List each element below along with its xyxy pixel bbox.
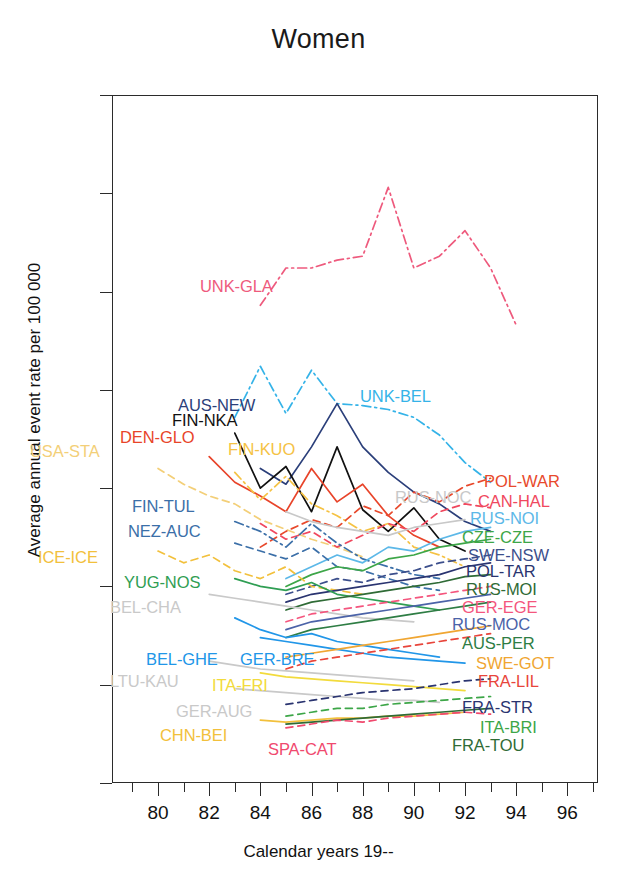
x-tick-mark-minor — [132, 783, 133, 792]
series-label-den-glo: DEN-GLO — [120, 428, 194, 447]
series-label-rus-noi: RUS-NOI — [470, 509, 539, 528]
x-tick-mark — [312, 783, 313, 796]
series-label-usa-sta: USA-STA — [30, 442, 100, 461]
series-label-pol-war: POL-WAR — [484, 472, 560, 491]
series-label-cze-cze: CZE-CZE — [462, 528, 533, 547]
series-line — [286, 563, 491, 602]
x-tick-mark-minor — [593, 783, 594, 792]
x-axis-label: Calendar years 19-- — [0, 842, 637, 862]
series-label-ltu-kau: LTU-KAU — [110, 672, 179, 691]
series-label-rus-moi: RUS-MOI — [466, 580, 537, 599]
series-line — [235, 366, 491, 482]
series-line — [260, 404, 490, 532]
series-line — [260, 673, 465, 691]
series-line — [260, 187, 516, 325]
series-line — [209, 594, 414, 622]
y-tick-mark — [100, 390, 112, 391]
series-line — [286, 512, 465, 536]
series-label-fra-str: FRA-STR — [462, 698, 533, 717]
series-label-ger-aug: GER-AUG — [176, 702, 252, 721]
series-label-fra-tou: FRA-TOU — [452, 736, 524, 755]
series-label-fra-lil: FRA-LIL — [478, 672, 539, 691]
x-tick-mark — [465, 783, 466, 796]
x-tick-mark — [260, 783, 261, 796]
x-tick-mark-minor — [567, 783, 568, 792]
series-line — [286, 555, 491, 594]
series-label-spa-cat: SPA-CAT — [268, 740, 336, 759]
series-label-bel-ghe: BEL-GHE — [146, 650, 218, 669]
x-tick-mark — [516, 783, 517, 796]
x-tick-mark — [209, 783, 210, 796]
y-tick-mark — [100, 783, 112, 784]
series-label-ita-fri: ITA-FRI — [212, 676, 268, 695]
series-label-fin-tul: FIN-TUL — [132, 497, 195, 516]
x-tick-mark-minor — [491, 783, 492, 792]
series-label-ger-bre: GER-BRE — [240, 650, 314, 669]
series-label-nez-auc: NEZ-AUC — [128, 522, 201, 541]
page-title: Women — [0, 24, 637, 55]
x-tick-mark-minor — [337, 783, 338, 792]
series-label-ita-bri: ITA-BRI — [480, 718, 537, 737]
y-tick-mark — [100, 586, 112, 587]
chart-root: Women Average annual event rate per 100 … — [0, 0, 637, 893]
x-tick-mark — [363, 783, 364, 796]
series-label-chn-bei: CHN-BEI — [160, 726, 227, 745]
series-line — [235, 579, 440, 610]
x-tick-label: 96 — [537, 802, 597, 824]
series-label-fin-kuo: FIN-KUO — [228, 440, 295, 459]
series-label-unk-bel: UNK-BEL — [360, 387, 431, 406]
series-label-bel-cha: BEL-CHA — [110, 598, 181, 617]
y-tick-mark — [100, 95, 112, 96]
series-label-unk-gla: UNK-GLA — [200, 277, 273, 296]
x-tick-mark-minor — [235, 783, 236, 792]
series-label-swe-got: SWE-GOT — [476, 654, 554, 673]
series-line — [286, 575, 491, 610]
x-tick-mark-minor — [184, 783, 185, 792]
series-label-rus-moc: RUS-MOC — [452, 615, 530, 634]
y-tick-mark — [100, 292, 112, 293]
series-label-aus-per: AUS-PER — [462, 634, 535, 653]
series-line — [286, 634, 491, 669]
x-tick-mark-minor — [286, 783, 287, 792]
series-label-rus-noc: RUS-NOC — [395, 488, 471, 507]
x-tick-mark — [414, 783, 415, 796]
y-tick-mark — [100, 193, 112, 194]
series-line — [260, 712, 465, 722]
x-tick-mark-minor — [439, 783, 440, 792]
series-label-ice-ice: ICE-ICE — [38, 548, 98, 567]
x-tick-mark — [158, 783, 159, 796]
x-tick-mark-minor — [542, 783, 543, 792]
x-tick-mark-minor — [388, 783, 389, 792]
series-label-pol-tar: POL-TAR — [466, 562, 536, 581]
y-tick-mark — [100, 488, 112, 489]
series-label-yug-nos: YUG-NOS — [124, 573, 200, 592]
